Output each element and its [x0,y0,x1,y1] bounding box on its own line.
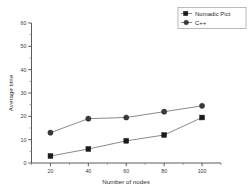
data-point-0-1 [86,147,91,152]
data-point-0-2 [124,138,129,143]
legend-marker-square [184,11,188,15]
legend-label-cpp: C++ [195,20,207,26]
y-axis-title: Average time [7,74,14,111]
data-point-1-0 [48,130,53,135]
x-tick-label-40: 40 [85,168,91,174]
x-axis-title: Number of nodes [102,178,149,185]
chart-canvas: 0102030405060 20406080100 Number of node… [0,0,250,193]
data-point-1-4 [199,103,204,108]
line-chart: 0102030405060 20406080100 Number of node… [0,0,250,193]
data-point-1-2 [124,115,129,120]
x-tick-label-60: 60 [123,168,129,174]
data-point-1-3 [162,109,167,114]
y-tick-label-50: 50 [21,43,27,49]
x-tick-label-20: 20 [47,168,53,174]
y-tick-label-40: 40 [21,67,27,73]
legend-marker-circle [184,20,189,25]
data-point-0-0 [48,154,53,159]
data-point-0-4 [200,115,205,120]
y-tick-label-10: 10 [21,137,27,143]
chart-legend: Nomadic Pict C++ [178,8,246,29]
data-point-0-3 [162,133,167,138]
y-tick-label-60: 60 [21,20,27,26]
y-tick-label-20: 20 [21,113,27,119]
data-point-1-1 [86,116,91,121]
y-tick-label-30: 30 [21,90,27,96]
x-tick-label-100: 100 [198,168,207,174]
y-tick-label-0: 0 [24,160,27,166]
chart-background [0,0,250,193]
legend-label-nomadic-pict: Nomadic Pict [195,11,231,17]
x-tick-label-80: 80 [161,168,167,174]
